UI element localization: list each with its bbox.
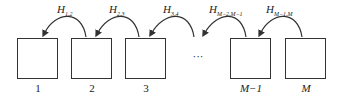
label-3: 3: [124, 82, 168, 94]
box-2: [71, 38, 112, 79]
arrow-h34: [151, 16, 194, 37]
h-2-3: H2,3: [109, 3, 124, 17]
box-1: [17, 38, 58, 79]
label-1: 1: [16, 82, 60, 94]
box-m: [285, 38, 326, 79]
ellipsis: ···: [176, 50, 220, 62]
arrow-hm1m: [260, 16, 302, 37]
label-m: M: [284, 82, 328, 94]
arrow-h23: [97, 16, 139, 37]
box-m-1: [230, 38, 271, 79]
label-m-1: M−1: [229, 82, 273, 94]
h-m1-m: HM−1,M: [266, 3, 293, 17]
arrow-hm2m1: [204, 16, 246, 37]
h-m2-m1: HM−2,M−1: [209, 3, 243, 17]
h-1-2: H1,2: [57, 3, 72, 17]
arrow-h12: [44, 16, 86, 37]
label-2: 2: [70, 82, 114, 94]
h-3-4: H3,4: [163, 3, 178, 17]
box-3: [125, 38, 166, 79]
